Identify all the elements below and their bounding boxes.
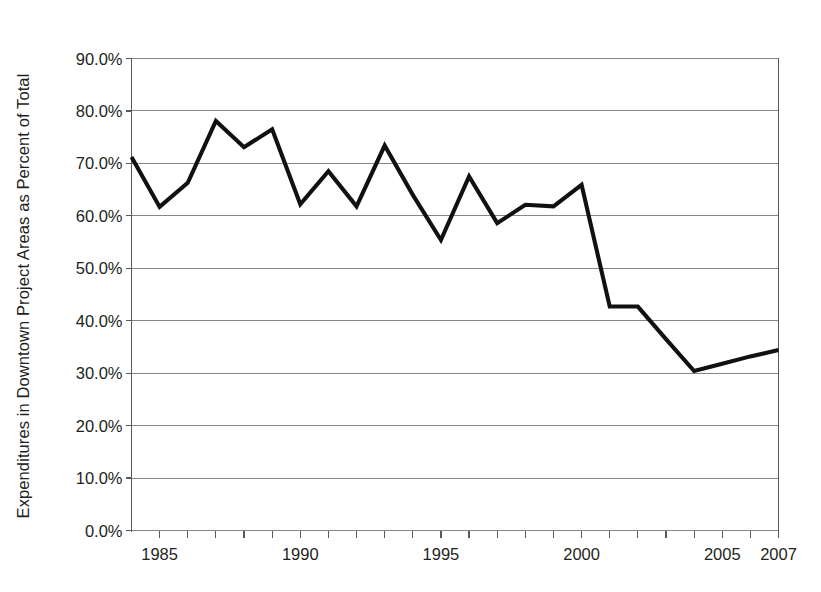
- x-tick-label: 1990: [282, 545, 319, 563]
- y-tick-label: 50.0%: [76, 259, 123, 277]
- gridlines-group: [132, 59, 779, 531]
- y-tick-label: 60.0%: [76, 207, 123, 225]
- y-tick-label: 80.0%: [76, 102, 123, 120]
- chart-figure: Expenditures in Downtown Project Areas a…: [0, 0, 821, 592]
- line-chart-plot: 0.0%10.0%20.0%30.0%40.0%50.0%60.0%70.0%8…: [0, 0, 821, 592]
- data-series-line: [132, 121, 779, 371]
- axis-lines-group: [132, 58, 779, 532]
- data-series-group: [132, 121, 779, 371]
- x-tick-labels-group: 198519901995200020052007: [141, 545, 797, 563]
- y-tick-label: 70.0%: [76, 154, 123, 172]
- y-tick-label: 10.0%: [76, 469, 123, 487]
- y-tick-labels-group: 0.0%10.0%20.0%30.0%40.0%50.0%60.0%70.0%8…: [76, 50, 132, 540]
- y-tick-label: 90.0%: [76, 50, 123, 68]
- x-minor-ticks-group: [160, 531, 779, 538]
- y-tick-label: 0.0%: [85, 522, 123, 540]
- x-tick-label: 1995: [423, 545, 460, 563]
- y-tick-label: 30.0%: [76, 364, 123, 382]
- x-tick-label: 2000: [563, 545, 600, 563]
- y-tick-label: 20.0%: [76, 417, 123, 435]
- y-tick-label: 40.0%: [76, 312, 123, 330]
- x-tick-label: 2005: [704, 545, 741, 563]
- x-tick-label: 1985: [141, 545, 178, 563]
- x-tick-label: 2007: [760, 545, 797, 563]
